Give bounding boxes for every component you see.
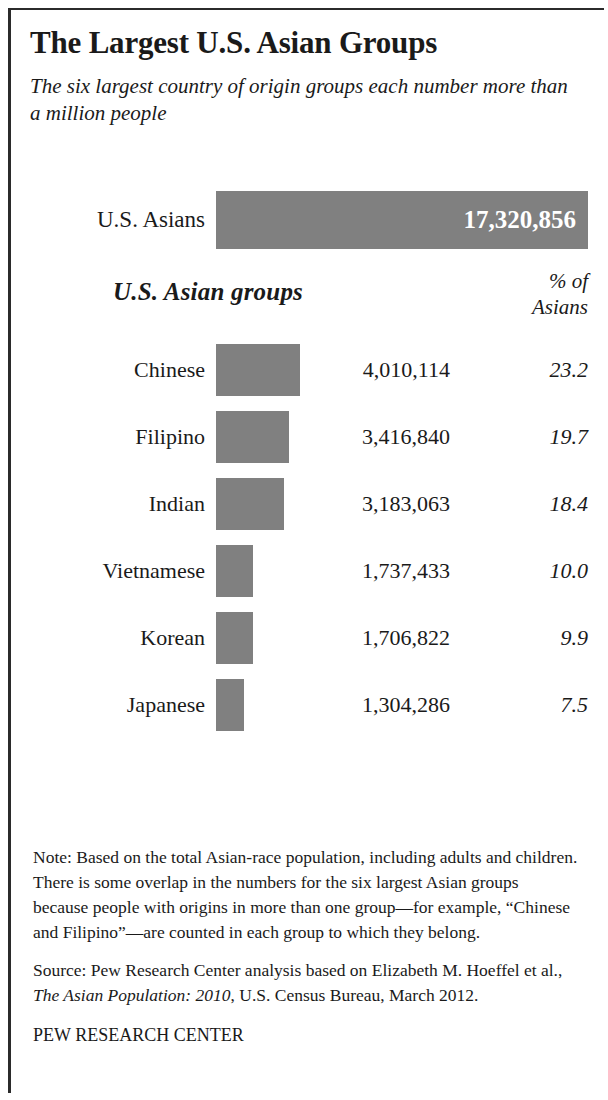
table-row: Vietnamese1,737,43310.0 <box>0 537 608 604</box>
table-row: Filipino3,416,84019.7 <box>0 403 608 470</box>
row-bar-cell <box>216 671 244 738</box>
footnote-source: Source: Pew Research Center analysis bas… <box>33 958 578 1008</box>
table-row: Chinese4,010,11423.2 <box>0 336 608 403</box>
row-label: Chinese <box>0 336 205 403</box>
total-row: U.S. Asians 17,320,856 <box>0 191 608 249</box>
row-bar <box>216 679 244 731</box>
row-value: 3,416,840 <box>250 403 450 470</box>
row-label: Japanese <box>0 671 205 738</box>
frame-top-border <box>8 8 604 10</box>
bar-rows: Chinese4,010,11423.2Filipino3,416,84019.… <box>0 336 608 738</box>
row-bar <box>216 612 253 664</box>
row-label: Filipino <box>0 403 205 470</box>
groups-column-heading: U.S. Asian groups <box>113 278 303 306</box>
percent-heading-line1: % of <box>438 268 588 294</box>
source-suffix: , U.S. Census Bureau, March 2012. <box>231 985 479 1005</box>
table-row: Korean1,706,8229.9 <box>0 604 608 671</box>
total-bar: 17,320,856 <box>216 191 588 249</box>
organization-name: PEW RESEARCH CENTER <box>33 1024 578 1047</box>
row-value: 1,706,822 <box>250 604 450 671</box>
row-percent: 19.7 <box>468 403 588 470</box>
row-percent: 23.2 <box>468 336 588 403</box>
total-value: 17,320,856 <box>464 191 577 249</box>
chart-footer: Note: Based on the total Asian-race popu… <box>33 845 578 1047</box>
table-row: Indian3,183,06318.4 <box>0 470 608 537</box>
row-percent: 9.9 <box>468 604 588 671</box>
row-percent: 10.0 <box>468 537 588 604</box>
column-header-row: U.S. Asian groups % of Asians <box>0 268 608 324</box>
source-prefix: Source: Pew Research Center analysis bas… <box>33 960 562 980</box>
row-bar <box>216 545 253 597</box>
chart-subtitle: The six largest country of origin groups… <box>30 73 575 128</box>
source-publication-title: The Asian Population: 2010 <box>33 985 231 1005</box>
page-title: The Largest U.S. Asian Groups <box>30 26 590 61</box>
row-label: Vietnamese <box>0 537 205 604</box>
row-percent: 18.4 <box>468 470 588 537</box>
percent-heading-line2: Asians <box>438 294 588 320</box>
row-value: 4,010,114 <box>250 336 450 403</box>
chart-header: The Largest U.S. Asian Groups The six la… <box>30 26 590 127</box>
row-bar-cell <box>216 537 253 604</box>
row-bar-cell <box>216 604 253 671</box>
footnote-note: Note: Based on the total Asian-race popu… <box>33 845 578 944</box>
row-value: 3,183,063 <box>250 470 450 537</box>
row-value: 1,304,286 <box>250 671 450 738</box>
percent-column-heading: % of Asians <box>438 268 588 321</box>
table-row: Japanese1,304,2867.5 <box>0 671 608 738</box>
row-label: Indian <box>0 470 205 537</box>
total-label: U.S. Asians <box>0 191 205 249</box>
row-percent: 7.5 <box>468 671 588 738</box>
row-label: Korean <box>0 604 205 671</box>
row-value: 1,737,433 <box>250 537 450 604</box>
chart-page: The Largest U.S. Asian Groups The six la… <box>0 0 608 1100</box>
